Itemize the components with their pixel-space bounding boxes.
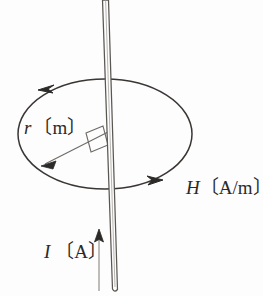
label-field-strength-symbol: H xyxy=(186,177,200,198)
label-field-strength: H〔A/m〕 xyxy=(186,178,263,197)
label-current-symbol: I xyxy=(44,241,50,262)
field-direction-arrowhead-left xyxy=(38,85,54,93)
label-field-strength-unit: 〔A/m〕 xyxy=(200,177,263,198)
label-radius: r〔m〕 xyxy=(24,118,86,137)
label-current: I〔A〕 xyxy=(44,242,107,261)
diagram-canvas xyxy=(0,0,263,296)
figure-container: r〔m〕 H〔A/m〕 I〔A〕 xyxy=(0,0,263,296)
label-current-unit: 〔A〕 xyxy=(55,241,107,262)
label-radius-symbol: r xyxy=(24,117,31,138)
field-direction-arrowhead-right xyxy=(147,176,163,185)
label-radius-unit: 〔m〕 xyxy=(33,117,86,138)
perpendicular-mark xyxy=(86,126,108,152)
